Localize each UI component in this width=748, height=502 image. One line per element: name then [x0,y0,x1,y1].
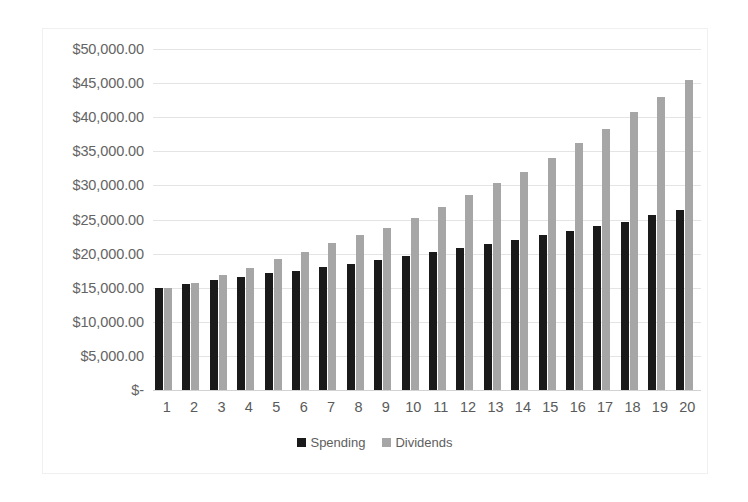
bar-dividends[interactable] [246,268,254,390]
bar-group[interactable]: 8 [345,49,372,390]
bar-spending[interactable] [566,231,574,390]
bar-spending[interactable] [621,222,629,390]
bar-group[interactable]: 4 [235,49,262,390]
bar-dividends[interactable] [191,283,199,390]
bar-dividends[interactable] [274,259,282,390]
bar-group[interactable]: 17 [591,49,618,390]
bar-spending[interactable] [429,252,437,390]
bar-dividends[interactable] [164,288,172,390]
chart-container: $50,000.00$45,000.00$40,000.00$35,000.00… [42,28,708,474]
bars-layer: 1234567891011121314151617181920 [153,49,701,390]
bar-group[interactable]: 16 [564,49,591,390]
chart-legend: SpendingDividends [43,435,707,450]
y-axis-tick-label: $5,000.00 [80,348,144,364]
bar-group[interactable]: 7 [317,49,344,390]
bar-spending[interactable] [155,288,163,390]
bar-spending[interactable] [593,226,601,390]
bar-spending[interactable] [402,256,410,390]
bar-spending[interactable] [539,235,547,390]
x-axis-tick-label: 6 [290,399,317,415]
bar-dividends[interactable] [575,143,583,390]
bar-group[interactable]: 1 [153,49,180,390]
legend-swatch-icon [382,438,391,447]
y-axis-tick-label: $35,000.00 [72,143,144,159]
bar-group[interactable]: 15 [537,49,564,390]
bar-spending[interactable] [648,215,656,390]
legend-label: Dividends [395,435,452,450]
bar-spending[interactable] [456,248,464,390]
bar-dividends[interactable] [548,158,556,390]
y-axis-tick-label: $45,000.00 [72,75,144,91]
bar-spending[interactable] [237,277,245,390]
bar-group[interactable]: 3 [208,49,235,390]
bar-spending[interactable] [182,284,190,390]
bar-group[interactable]: 9 [372,49,399,390]
bar-dividends[interactable] [301,252,309,390]
x-axis-tick-label: 2 [180,399,207,415]
y-axis-tick-label: $40,000.00 [72,109,144,125]
x-axis-tick-label: 18 [619,399,646,415]
y-axis-tick-label: $10,000.00 [72,314,144,330]
bar-dividends[interactable] [328,243,336,390]
y-axis-tick-label: $25,000.00 [72,212,144,228]
bar-spending[interactable] [319,267,327,390]
bar-group[interactable]: 18 [619,49,646,390]
bar-spending[interactable] [484,244,492,390]
gridline [153,390,701,391]
x-axis-tick-label: 5 [263,399,290,415]
bar-spending[interactable] [511,240,519,390]
y-axis-tick-label: $15,000.00 [72,280,144,296]
y-axis-tick-label: $20,000.00 [72,246,144,262]
bar-group[interactable]: 10 [400,49,427,390]
x-axis-tick-label: 19 [646,399,673,415]
bar-group[interactable]: 11 [427,49,454,390]
plot-area: $50,000.00$45,000.00$40,000.00$35,000.00… [153,49,701,390]
legend-item[interactable]: Dividends [382,435,452,450]
bar-dividends[interactable] [493,183,501,390]
bar-spending[interactable] [374,260,382,390]
x-axis-tick-label: 10 [400,399,427,415]
bar-dividends[interactable] [356,235,364,390]
x-axis-tick-label: 9 [372,399,399,415]
x-axis-tick-label: 20 [674,399,701,415]
bar-dividends[interactable] [657,97,665,390]
y-axis-tick-label: $- [131,382,144,398]
bar-group[interactable]: 19 [646,49,673,390]
bar-dividends[interactable] [602,129,610,390]
bar-group[interactable]: 2 [180,49,207,390]
bar-dividends[interactable] [438,207,446,390]
bar-dividends[interactable] [520,172,528,390]
bar-spending[interactable] [347,264,355,390]
bar-group[interactable]: 14 [509,49,536,390]
bar-dividends[interactable] [630,112,638,390]
x-axis-tick-label: 1 [153,399,180,415]
bar-group[interactable]: 5 [263,49,290,390]
y-axis-tick-label: $30,000.00 [72,177,144,193]
bar-spending[interactable] [292,271,300,390]
x-axis-tick-label: 12 [454,399,481,415]
x-axis-tick-label: 4 [235,399,262,415]
x-axis-tick-label: 15 [537,399,564,415]
x-axis-tick-label: 14 [509,399,536,415]
bar-group[interactable]: 6 [290,49,317,390]
x-axis-tick-label: 8 [345,399,372,415]
legend-item[interactable]: Spending [297,435,365,450]
x-axis-tick-label: 13 [482,399,509,415]
bar-group[interactable]: 20 [674,49,701,390]
x-axis-tick-label: 16 [564,399,591,415]
bar-group[interactable]: 12 [454,49,481,390]
bar-dividends[interactable] [411,218,419,390]
bar-spending[interactable] [210,280,218,390]
bar-group[interactable]: 13 [482,49,509,390]
bar-dividends[interactable] [465,195,473,390]
x-axis-tick-label: 17 [591,399,618,415]
legend-swatch-icon [297,438,306,447]
x-axis-tick-label: 11 [427,399,454,415]
bar-dividends[interactable] [685,80,693,390]
legend-label: Spending [310,435,365,450]
bar-dividends[interactable] [219,275,227,390]
bar-dividends[interactable] [383,228,391,390]
bar-spending[interactable] [676,210,684,390]
bar-spending[interactable] [265,273,273,390]
y-axis-tick-label: $50,000.00 [72,41,144,57]
